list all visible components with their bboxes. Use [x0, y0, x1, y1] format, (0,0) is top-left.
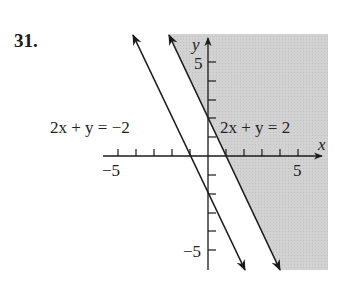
x-tick-label-neg5: −5 [102, 161, 120, 180]
inequality-graph: y x 5 −5 −5 5 2x + y = −2 2x + y = 2 [0, 0, 343, 292]
y-axis-label: y [190, 35, 200, 54]
x-tick-label-5: 5 [293, 161, 302, 180]
line1-label: 2x + y = −2 [50, 118, 130, 137]
y-tick-label-neg5: −5 [183, 242, 201, 261]
shaded-region [169, 34, 328, 270]
line2-label: 2x + y = 2 [220, 118, 290, 137]
x-axis-label: x [317, 135, 326, 154]
y-tick-label-5: 5 [194, 54, 203, 73]
